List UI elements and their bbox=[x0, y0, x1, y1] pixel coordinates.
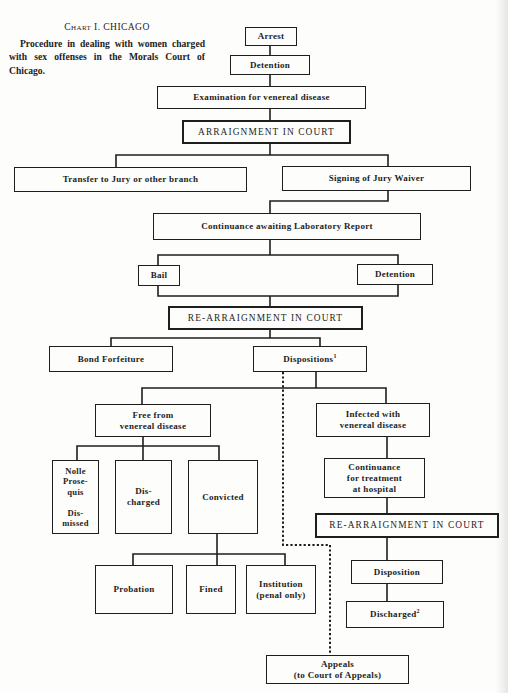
node-discharged: Dis- charged bbox=[115, 460, 172, 534]
node-convicted-label: Convicted bbox=[202, 492, 244, 503]
node-disposition: Disposition bbox=[351, 560, 443, 584]
node-bond-forfeiture: Bond Forfeiture bbox=[49, 346, 173, 372]
node-discharged-2-label: Discharged2 bbox=[370, 609, 420, 620]
node-continuance-hospital-label: Continuance for treatment at hospital bbox=[347, 462, 402, 495]
node-discharged-2: Discharged2 bbox=[346, 601, 444, 628]
dispositions-text: Dispositions bbox=[283, 354, 333, 364]
node-free: Free from venereal disease bbox=[95, 404, 211, 437]
node-jury-waiver-label: Signing of Jury Waiver bbox=[329, 173, 425, 184]
node-arraignment: ARRAIGNMENT IN COURT bbox=[182, 120, 351, 144]
node-detention-initial-label: Detention bbox=[250, 60, 290, 71]
connector-split-free-infected bbox=[142, 388, 386, 404]
connector-split-probation-fined-institution bbox=[133, 554, 285, 565]
node-arraignment-label: ARRAIGNMENT IN COURT bbox=[198, 127, 335, 138]
node-arrest-label: Arrest bbox=[258, 31, 285, 42]
node-free-label: Free from venereal disease bbox=[120, 410, 186, 432]
node-institution: Institution (penal only) bbox=[246, 565, 316, 614]
node-infected: Infected with venereal disease bbox=[316, 403, 430, 437]
connector-split-nolle-discharged-convicted bbox=[77, 446, 219, 460]
bracket-bottom bbox=[158, 284, 398, 296]
node-discharged-label: Dis- charged bbox=[127, 486, 160, 508]
node-appeals: Appeals (to Court of Appeals) bbox=[266, 655, 409, 684]
node-rearraignment-2-label: RE-ARRAIGNMENT IN COURT bbox=[329, 520, 484, 531]
node-bail: Bail bbox=[138, 265, 180, 286]
node-arrest: Arrest bbox=[245, 27, 297, 46]
node-probation-label: Probation bbox=[113, 584, 154, 595]
node-transfer: Transfer to Jury or other branch bbox=[14, 167, 247, 192]
node-bond-forfeiture-label: Bond Forfeiture bbox=[78, 354, 145, 365]
node-examination-label: Examination for venereal disease bbox=[193, 92, 330, 103]
node-examination: Examination for venereal disease bbox=[157, 86, 366, 109]
footnote-marker-1: 1 bbox=[333, 353, 336, 359]
node-nolle-prosequis: Nolle Prose- quis Dis- missed bbox=[52, 460, 99, 534]
node-disposition-label: Disposition bbox=[374, 567, 420, 578]
node-continuance-lab-label: Continuance awaiting Laboratory Report bbox=[201, 221, 373, 232]
node-infected-label: Infected with venereal disease bbox=[340, 409, 406, 431]
node-dispositions-label: Dispositions1 bbox=[283, 354, 336, 365]
node-appeals-label: Appeals (to Court of Appeals) bbox=[294, 659, 382, 681]
node-nolle-label: Nolle Prose- quis Dis- missed bbox=[62, 466, 89, 529]
node-institution-label: Institution (penal only) bbox=[256, 579, 305, 601]
node-detention-initial: Detention bbox=[230, 55, 310, 75]
connector-waiver-continuance bbox=[270, 190, 388, 213]
node-continuance-hospital: Continuance for treatment at hospital bbox=[324, 458, 425, 498]
node-fined-label: Fined bbox=[199, 584, 223, 595]
discharged-2-text: Discharged bbox=[370, 609, 417, 619]
footnote-marker-2: 2 bbox=[417, 608, 420, 614]
node-rearraignment-label: RE-ARRAIGNMENT IN COURT bbox=[188, 313, 343, 324]
node-transfer-label: Transfer to Jury or other branch bbox=[63, 174, 199, 185]
node-detention-lab: Detention bbox=[357, 264, 433, 285]
node-fined: Fined bbox=[186, 565, 236, 614]
node-bail-label: Bail bbox=[151, 270, 168, 281]
node-jury-waiver: Signing of Jury Waiver bbox=[282, 166, 471, 191]
node-probation: Probation bbox=[95, 565, 173, 614]
node-dispositions: Dispositions1 bbox=[253, 346, 367, 372]
connector-split-bond-dispositions bbox=[111, 338, 320, 346]
node-continuance-lab: Continuance awaiting Laboratory Report bbox=[153, 213, 421, 240]
node-detention-lab-label: Detention bbox=[375, 269, 415, 280]
node-convicted: Convicted bbox=[188, 460, 258, 534]
node-rearraignment: RE-ARRAIGNMENT IN COURT bbox=[168, 306, 363, 330]
node-rearraignment-2: RE-ARRAIGNMENT IN COURT bbox=[315, 513, 499, 538]
